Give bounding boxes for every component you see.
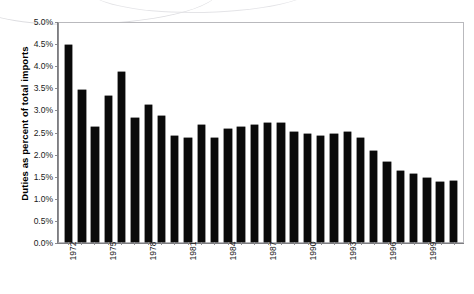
bar-slot xyxy=(341,23,354,242)
bar xyxy=(436,182,443,242)
x-tick-slot xyxy=(194,245,207,293)
bar xyxy=(198,125,205,242)
bar-slot xyxy=(75,23,88,242)
bar xyxy=(383,162,390,242)
bar-slot xyxy=(274,23,287,242)
x-tick-mark xyxy=(161,242,162,245)
x-tick-slot xyxy=(128,245,141,293)
bar xyxy=(397,171,404,242)
bar xyxy=(357,138,364,242)
x-tick-mark xyxy=(294,242,295,245)
bar-chart: Duties as percent of total imports 0.0%0… xyxy=(0,0,474,294)
x-tick-mark xyxy=(414,242,415,245)
bar xyxy=(277,123,284,242)
x-tick-mark xyxy=(254,242,255,245)
x-tick-slot: 1990 xyxy=(301,245,314,293)
bar xyxy=(91,127,98,242)
bar-slot xyxy=(301,23,314,242)
bar xyxy=(184,138,191,242)
x-tick-slot xyxy=(434,245,447,293)
bar xyxy=(317,136,324,242)
x-tick-slot: 1981 xyxy=(181,245,194,293)
x-tick-slot: 1987 xyxy=(261,245,274,293)
x-tick-slot: 1999 xyxy=(421,245,434,293)
bar xyxy=(370,151,377,242)
bar-slot xyxy=(261,23,274,242)
bar-slot xyxy=(380,23,393,242)
bar-slot xyxy=(234,23,247,242)
bar-slot xyxy=(155,23,168,242)
bar xyxy=(304,134,311,242)
bar xyxy=(410,174,417,243)
x-tick-slot xyxy=(234,245,247,293)
x-tick-slot xyxy=(74,245,87,293)
bar-slot xyxy=(115,23,128,242)
bar-series xyxy=(59,23,463,242)
x-tick-slot: 1972 xyxy=(61,245,74,293)
bar-slot xyxy=(89,23,102,242)
bar xyxy=(264,123,271,242)
x-tick-mark xyxy=(121,242,122,245)
x-tick-mark xyxy=(174,242,175,245)
bar xyxy=(118,72,125,242)
bar-slot xyxy=(433,23,446,242)
bar-slot xyxy=(102,23,115,242)
x-tick-slot xyxy=(394,245,407,293)
bar-slot xyxy=(221,23,234,242)
x-tick-mark xyxy=(134,242,135,245)
x-tick-slot xyxy=(368,245,381,293)
bar-slot xyxy=(447,23,460,242)
x-tick-mark xyxy=(321,242,322,245)
x-axis-tick-labels: 1972197519781981198419871990199319961999 xyxy=(58,245,464,293)
bar xyxy=(158,116,165,242)
y-axis-title: Duties as percent of total imports xyxy=(19,14,30,234)
bar-slot xyxy=(142,23,155,242)
bar-slot xyxy=(407,23,420,242)
x-tick-slot xyxy=(88,245,101,293)
x-tick-slot xyxy=(168,245,181,293)
bar-slot xyxy=(195,23,208,242)
bar xyxy=(65,45,72,242)
x-tick-mark xyxy=(81,242,82,245)
bar xyxy=(450,181,457,242)
bar xyxy=(251,125,258,242)
x-tick-slot xyxy=(114,245,127,293)
x-tick-mark xyxy=(281,242,282,245)
x-tick-mark xyxy=(201,242,202,245)
x-tick-mark xyxy=(334,242,335,245)
bar-slot xyxy=(394,23,407,242)
bar xyxy=(344,132,351,243)
x-tick-slot xyxy=(408,245,421,293)
bar-slot xyxy=(420,23,433,242)
scan-curve-artifact-secondary xyxy=(88,0,318,13)
bar xyxy=(237,127,244,242)
bar xyxy=(131,118,138,242)
x-tick-slot xyxy=(354,245,367,293)
x-tick-slot: 1984 xyxy=(221,245,234,293)
bar xyxy=(290,132,297,243)
bar-slot xyxy=(168,23,181,242)
x-tick-slot xyxy=(448,245,461,293)
bar xyxy=(145,105,152,242)
x-tick-slot xyxy=(248,245,261,293)
bar xyxy=(224,129,231,242)
x-tick-mark xyxy=(454,242,455,245)
bar-slot xyxy=(314,23,327,242)
bar-slot xyxy=(367,23,380,242)
x-tick-slot xyxy=(208,245,221,293)
bar xyxy=(171,136,178,242)
x-tick-mark xyxy=(374,242,375,245)
x-tick-slot: 1993 xyxy=(341,245,354,293)
x-tick-slot: 1996 xyxy=(381,245,394,293)
x-tick-slot xyxy=(154,245,167,293)
x-tick-slot: 1978 xyxy=(141,245,154,293)
x-tick-slot: 1975 xyxy=(101,245,114,293)
bar xyxy=(423,178,430,242)
bar-slot xyxy=(128,23,141,242)
x-tick-slot xyxy=(328,245,341,293)
x-tick-mark xyxy=(441,242,442,245)
bar-slot xyxy=(327,23,340,242)
x-tick-mark xyxy=(361,242,362,245)
x-tick-slot xyxy=(314,245,327,293)
x-tick-mark xyxy=(401,242,402,245)
